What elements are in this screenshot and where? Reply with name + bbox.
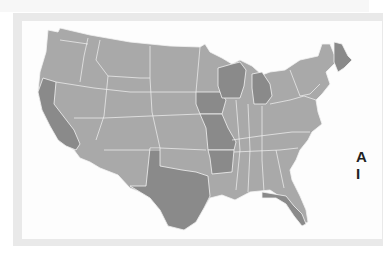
state-wisconsin: [218, 62, 246, 98]
state-arkansas: [208, 150, 234, 174]
cropped-text-line-2: I: [356, 165, 367, 182]
cropped-side-text: A I: [356, 148, 367, 182]
cropped-text-line-1: A: [356, 148, 367, 165]
state-maine: [334, 42, 352, 72]
